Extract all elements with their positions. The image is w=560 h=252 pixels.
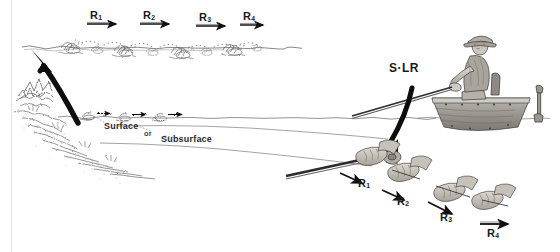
- angler-in-boat: [352, 36, 550, 131]
- structure-to-surface-arrow: [31, 49, 78, 123]
- hand-arrow-r4: [480, 222, 508, 224]
- lower-waterline: [58, 116, 436, 119]
- submerged-structure: [14, 79, 155, 183]
- subsurface-path-label: Subsurface: [161, 135, 212, 144]
- hand-label-r2: R2: [397, 196, 409, 207]
- rod-label-slr: S·LR: [389, 62, 419, 74]
- illustration: [0, 0, 560, 252]
- surface-path-label: Surface: [104, 122, 138, 131]
- hand-label-r3: R3: [440, 212, 452, 223]
- hand-label-r4: R4: [487, 228, 499, 239]
- surface-arrow-r4: [240, 23, 263, 25]
- surface-label-r2: R2: [143, 10, 155, 21]
- surface-label-r4: R4: [243, 11, 255, 22]
- hand-label-r1: R1: [358, 178, 370, 189]
- subsurface-path: [100, 143, 372, 166]
- surface-arrow-r1: [87, 22, 116, 24]
- outboard-motor: [534, 85, 543, 122]
- figure-canvas: R1 R2 R3 R4 S·LR Surface or Subsurface R…: [0, 0, 560, 252]
- surface-arrow-r2: [140, 22, 169, 24]
- surface-lure-splashes: [59, 39, 261, 58]
- hand-retrieve-detail: [286, 140, 516, 224]
- surface-path-line: [118, 126, 388, 139]
- or-label: or: [144, 130, 152, 138]
- angler-figure: [449, 36, 496, 100]
- surface-arrow-r3: [196, 24, 225, 26]
- surface-label-r3: R3: [199, 12, 211, 23]
- surface-label-r1: R1: [90, 10, 102, 21]
- hand-grip-3: [434, 176, 478, 202]
- surface-retrieve-arrows: [87, 22, 263, 26]
- hand-grip-4: [472, 184, 516, 210]
